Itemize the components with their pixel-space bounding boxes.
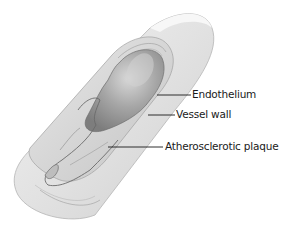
artery-illustration — [0, 0, 294, 226]
label-atherosclerotic-plaque: Atherosclerotic plaque — [165, 140, 278, 152]
label-endothelium: Endothelium — [192, 88, 256, 100]
label-vessel-wall: Vessel wall — [176, 108, 231, 120]
